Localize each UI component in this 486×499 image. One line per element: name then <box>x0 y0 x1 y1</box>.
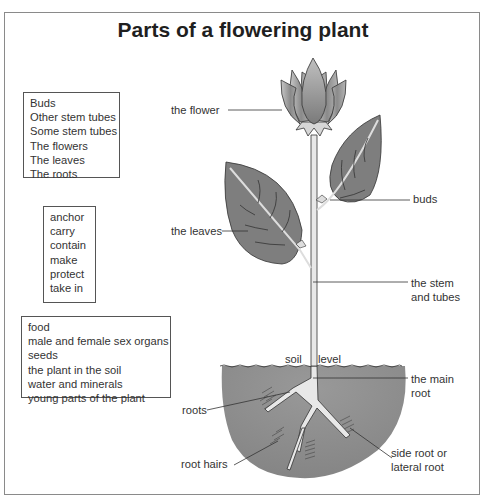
left-leaf <box>225 162 311 268</box>
label-root-hairs: root hairs <box>181 458 228 472</box>
flower <box>281 58 346 136</box>
plant-illustration <box>0 0 486 499</box>
label-main-root-line2: root <box>411 387 430 401</box>
label-stem-line1: the stem <box>411 277 454 291</box>
right-leaf <box>316 115 381 210</box>
label-soil: soil <box>285 353 302 367</box>
label-buds: buds <box>413 193 437 207</box>
label-level: level <box>318 353 341 367</box>
label-side-root-line2: lateral root <box>391 461 444 475</box>
stem <box>311 135 317 366</box>
label-leaves: the leaves <box>171 225 222 239</box>
label-flower: the flower <box>171 104 220 118</box>
label-roots: roots <box>182 404 207 418</box>
label-main-root-line1: the main <box>411 373 454 387</box>
label-stem-line2: and tubes <box>411 291 460 305</box>
label-side-root-line1: side root or <box>391 447 447 461</box>
